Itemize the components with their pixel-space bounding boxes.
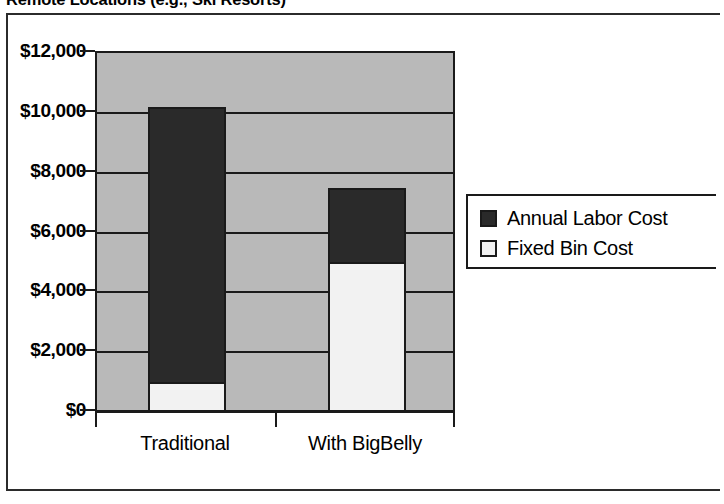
y-axis-tick-label: $8,000 bbox=[0, 160, 86, 182]
legend-label: Fixed Bin Cost bbox=[507, 237, 633, 260]
chart-legend: Annual Labor Cost Fixed Bin Cost bbox=[466, 194, 716, 269]
y-axis-tick-label: $6,000 bbox=[0, 220, 86, 242]
bar-segment bbox=[148, 107, 226, 384]
bar-segment bbox=[328, 188, 406, 265]
y-axis-tick bbox=[80, 289, 95, 291]
chart-title: Remote Locations (e.g., Ski Resorts) bbox=[6, 0, 506, 13]
x-axis-tick bbox=[453, 410, 455, 427]
y-axis-tick-label: $2,000 bbox=[0, 339, 86, 361]
legend-item-annual-labor-cost: Annual Labor Cost bbox=[480, 203, 716, 233]
bar-segment bbox=[148, 382, 226, 410]
y-axis-tick bbox=[80, 349, 95, 351]
y-axis-tick-label: $12,000 bbox=[0, 40, 86, 62]
y-axis-tick bbox=[80, 170, 95, 172]
x-axis-category-label: With BigBelly bbox=[275, 432, 455, 455]
y-axis-tick bbox=[80, 230, 95, 232]
x-axis-tick bbox=[275, 410, 277, 427]
x-axis-tick bbox=[95, 410, 97, 427]
legend-swatch-light-icon bbox=[480, 240, 497, 257]
x-axis-category-label: Traditional bbox=[95, 432, 275, 455]
y-axis-tick bbox=[80, 110, 95, 112]
y-axis-tick-label: $10,000 bbox=[0, 100, 86, 122]
y-axis-tick-label: $0 bbox=[0, 399, 86, 421]
plot-area bbox=[95, 51, 455, 410]
y-axis-tick-label: $4,000 bbox=[0, 279, 86, 301]
y-axis-tick bbox=[80, 409, 95, 411]
y-axis-tick bbox=[80, 50, 95, 52]
legend-swatch-dark-icon bbox=[480, 210, 497, 227]
bar-segment bbox=[328, 262, 406, 410]
legend-label: Annual Labor Cost bbox=[507, 207, 668, 230]
legend-item-fixed-bin-cost: Fixed Bin Cost bbox=[480, 233, 716, 263]
